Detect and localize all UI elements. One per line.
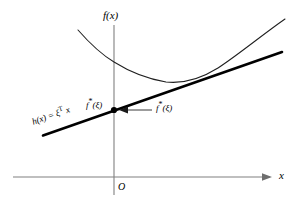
- origin-label: O: [118, 182, 125, 192]
- y-intercept-marker: [111, 107, 117, 113]
- x-axis-label: x: [279, 170, 284, 181]
- conjugate-function-figure: f(x) x O h(x) = ξT x f*(ξ) f*(ξ): [0, 0, 293, 211]
- x-axis-arrowhead: [262, 173, 272, 181]
- conjugate-value-label-left: f*(ξ): [86, 98, 102, 110]
- x-axis: [13, 173, 272, 181]
- supporting-line: [43, 52, 282, 136]
- conjugate-right-arg: (ξ): [163, 103, 173, 113]
- conjugate-value-label-right: f*(ξ): [156, 101, 172, 113]
- y-axis-label: f(x): [103, 10, 118, 21]
- conjugate-left-arg: (ξ): [93, 100, 103, 110]
- figure-canvas: [0, 0, 293, 211]
- convex-function-curve: [78, 19, 285, 82]
